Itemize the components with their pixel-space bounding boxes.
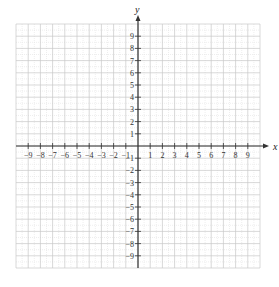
x-tick-label: 8 bbox=[234, 151, 238, 160]
x-tick-label: −8 bbox=[36, 151, 45, 160]
y-axis-label: y bbox=[134, 4, 140, 15]
y-tick-label: −5 bbox=[125, 203, 134, 212]
x-tick-label: −9 bbox=[24, 151, 33, 160]
y-tick-label: −7 bbox=[125, 227, 134, 236]
x-tick-label: 3 bbox=[173, 151, 177, 160]
y-tick-label: 3 bbox=[130, 105, 134, 114]
x-tick-label: −7 bbox=[48, 151, 57, 160]
x-tick-label: 5 bbox=[197, 151, 201, 160]
y-tick-label: 7 bbox=[130, 57, 134, 66]
y-tick-label: 8 bbox=[130, 44, 134, 53]
y-tick-label: −4 bbox=[125, 191, 134, 200]
y-tick-label: 2 bbox=[130, 118, 134, 127]
y-tick-label: −8 bbox=[125, 240, 134, 249]
x-tick-label: 7 bbox=[221, 151, 225, 160]
x-tick-label: −5 bbox=[73, 151, 82, 160]
x-tick-label: −6 bbox=[61, 151, 70, 160]
y-tick-label: −9 bbox=[125, 252, 134, 261]
x-tick-label: −2 bbox=[109, 151, 118, 160]
y-tick-label: 6 bbox=[130, 69, 134, 78]
y-axis-arrow-icon bbox=[136, 15, 141, 21]
x-tick-label: 6 bbox=[209, 151, 213, 160]
x-tick-label: −3 bbox=[97, 151, 106, 160]
x-tick-label: 9 bbox=[246, 151, 250, 160]
y-tick-label: 4 bbox=[130, 93, 134, 102]
y-tick-label: 1 bbox=[130, 130, 134, 139]
y-tick-label: −3 bbox=[125, 179, 134, 188]
x-tick-label: −4 bbox=[85, 151, 94, 160]
y-tick-label: 9 bbox=[130, 32, 134, 41]
coordinate-plane: −9−8−7−6−5−4−3−2−1123456789−9−8−7−6−5−4−… bbox=[0, 0, 279, 287]
y-tick-label: 5 bbox=[130, 81, 134, 90]
x-axis-label: x bbox=[272, 141, 278, 152]
y-tick-label: −1 bbox=[125, 154, 134, 163]
axes bbox=[16, 15, 269, 268]
x-tick-label: 2 bbox=[160, 151, 164, 160]
x-axis-arrow-icon bbox=[263, 144, 269, 149]
x-tick-label: 1 bbox=[148, 151, 152, 160]
y-tick-label: −6 bbox=[125, 215, 134, 224]
x-tick-label: 4 bbox=[185, 151, 189, 160]
y-tick-label: −2 bbox=[125, 166, 134, 175]
